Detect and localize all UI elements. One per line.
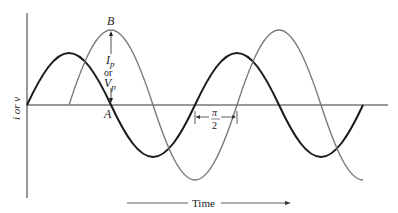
point-a-label: A	[103, 107, 112, 121]
arrow-up-icon	[109, 31, 113, 36]
arrow-left-icon	[196, 115, 200, 119]
pi-label: π	[212, 107, 218, 118]
waveform-diagram: B A Ip or Vp π 2 Time i or v	[0, 0, 398, 213]
two-label: 2	[212, 120, 217, 131]
point-b-label: B	[107, 14, 115, 28]
y-axis-label: i or v	[10, 97, 22, 120]
time-label: Time	[192, 197, 215, 209]
vp-label: Vp	[104, 76, 116, 92]
time-arrow-icon	[285, 201, 291, 205]
